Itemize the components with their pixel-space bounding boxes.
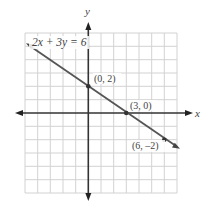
arrow-up-icon — [85, 22, 91, 30]
y-axis-label: y — [84, 5, 90, 17]
x-axis-label: x — [194, 107, 200, 119]
point-0-2 — [86, 84, 91, 89]
equation-label: 2x + 3y = 6 — [32, 36, 87, 49]
coordinate-graph: 2x + 3y = 6 y x (0, 2) (3, 0) (6, –2) — [0, 0, 210, 207]
point-label-6-neg2: (6, –2) — [132, 140, 159, 152]
point-3-0 — [124, 111, 129, 116]
point-label-3-0: (3, 0) — [130, 100, 152, 112]
equation-line — [26, 43, 180, 148]
point-label-0-2: (0, 2) — [94, 73, 116, 85]
arrow-down-icon — [85, 193, 91, 201]
arrow-right-icon — [185, 110, 193, 116]
arrow-left-icon — [15, 110, 23, 116]
x-axis — [15, 110, 193, 116]
